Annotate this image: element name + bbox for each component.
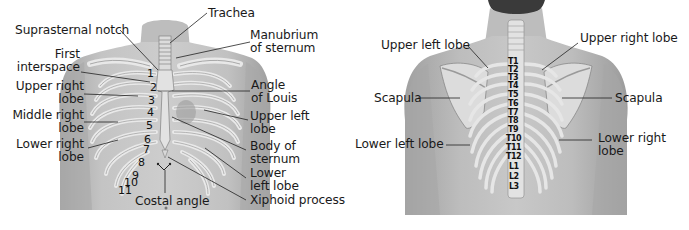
label-text: Lower left lobe: [355, 137, 444, 151]
vertebra-label: L2: [509, 173, 519, 181]
vertebra-label: L3: [509, 183, 519, 191]
rib-number: 5: [146, 120, 153, 131]
vertebra-label: T8: [508, 117, 518, 125]
vertebra-label: T10: [506, 135, 521, 143]
rib-number: 4: [147, 107, 154, 118]
vertebra-label: L1: [509, 163, 519, 171]
label-lower-left-lobe-posterior: Lower left lobe: [355, 138, 444, 151]
vertebra-label: T5: [508, 91, 518, 99]
label-text: Scapula: [374, 91, 422, 105]
vertebra-label: T12: [506, 153, 521, 161]
label-line: lobe: [4, 122, 84, 135]
label-line: sternum: [250, 153, 300, 166]
rib-number: 8: [138, 157, 145, 168]
label-text: Xiphoid process: [250, 193, 345, 207]
label-trachea: Trachea: [208, 7, 255, 20]
label-manubrium: Manubrium of sternum: [250, 29, 318, 55]
label-upper-left-lobe-posterior: Upper left lobe: [381, 39, 470, 52]
label-line: of sternum: [250, 42, 318, 55]
label-first-interspace: First interspace: [10, 48, 80, 74]
label-upper-right-lobe-posterior: Upper right lobe: [580, 32, 678, 45]
vertebra-label: T4: [508, 82, 518, 90]
vertebra-label: T9: [508, 126, 518, 134]
label-text: Costal angle: [135, 194, 209, 208]
label-line: interspace: [10, 61, 80, 74]
label-upper-left-lobe-anterior: Upper left lobe: [250, 110, 310, 136]
label-scapula-right: Scapula: [615, 92, 663, 105]
rib-number: 7: [143, 144, 150, 155]
label-text: Scapula: [615, 91, 663, 105]
thorax-landmarks-figure: Suprasternal notch First interspace Uppe…: [0, 0, 689, 230]
label-body-of-sternum: Body of sternum: [250, 140, 300, 166]
rib-number: 3: [148, 95, 155, 106]
label-angle-of-louis: Angle of Louis: [251, 79, 297, 105]
label-costal-angle: Costal angle: [135, 195, 209, 208]
label-line: of Louis: [251, 92, 297, 105]
label-upper-right-lobe: Upper right lobe: [4, 80, 84, 106]
rib-number: 2: [150, 82, 157, 93]
label-line: lobe: [250, 123, 310, 136]
label-lower-left-lobe-anterior: Lower left lobe: [250, 167, 299, 193]
label-scapula-left: Scapula: [374, 92, 422, 105]
vertebra-label: T11: [506, 144, 521, 152]
rib-number: 1: [147, 68, 154, 79]
label-text: Upper right lobe: [580, 31, 678, 45]
rib-number: 11: [118, 185, 132, 196]
label-lower-right-lobe: Lower right lobe: [4, 138, 84, 164]
label-suprasternal-notch: Suprasternal notch: [15, 24, 145, 37]
label-middle-right-lobe: Middle right lobe: [4, 109, 84, 135]
label-line: lobe: [4, 93, 84, 106]
vertebra-label: T6: [508, 100, 518, 108]
label-text: Trachea: [208, 6, 255, 20]
label-line: left lobe: [250, 180, 299, 193]
label-line: lobe: [4, 151, 84, 164]
label-xiphoid-process: Xiphoid process: [250, 194, 345, 207]
label-text: Suprasternal notch: [15, 23, 129, 37]
label-line: lobe: [598, 145, 666, 158]
label-text: Upper left lobe: [381, 38, 470, 52]
label-lower-right-lobe-posterior: Lower right lobe: [598, 132, 666, 158]
